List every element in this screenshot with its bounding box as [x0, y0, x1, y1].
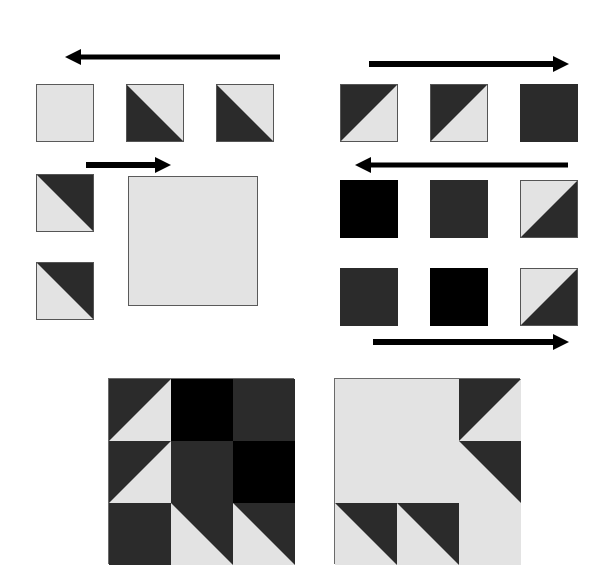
diagram-canvas [0, 0, 614, 587]
finished-block-dark-cell-r1c3 [233, 379, 295, 441]
finished-block-dark-cell-r1c2 [171, 379, 233, 441]
patch-tr-2 [430, 84, 488, 142]
patch-br-1 [340, 268, 398, 326]
patch-tl-1 [36, 84, 94, 142]
patch-tr-1 [340, 84, 398, 142]
arrow-top-right-icon [369, 55, 569, 73]
arrow-top-left-icon [65, 48, 280, 66]
finished-block-dark-cell-r3c2 [171, 503, 233, 565]
patch-tr-3 [520, 84, 578, 142]
patch-ml-2 [36, 262, 94, 320]
patch-mr-3 [520, 180, 578, 238]
arrow-mid-right-icon [355, 156, 568, 174]
arrow-bottom-right-icon [373, 333, 569, 351]
patch-tl-3 [216, 84, 274, 142]
patch-ml-1 [36, 174, 94, 232]
patch-mr-2 [430, 180, 488, 238]
finished-block-dark-cell-r2c2 [171, 441, 233, 503]
arrow-mid-left-icon [86, 156, 171, 174]
finished-block-light-cell-r3c2 [397, 503, 459, 565]
patch-tl-2 [126, 84, 184, 142]
block-light-center-square [335, 379, 459, 503]
patch-br-2 [430, 268, 488, 326]
finished-block-light-cell-r2c3 [459, 441, 521, 503]
finished-block-dark-cell-r2c3 [233, 441, 295, 503]
finished-block-dark-cell-r1c1 [109, 379, 171, 441]
finished-block-dark [108, 378, 294, 564]
patch-mr-1 [340, 180, 398, 238]
finished-block-light [334, 378, 520, 564]
finished-block-light-cell-r1c3 [459, 379, 521, 441]
patch-br-3 [520, 268, 578, 326]
patch-ml-big [128, 176, 258, 306]
finished-block-dark-cell-r3c1 [109, 503, 171, 565]
finished-block-light-cell-r3c3 [459, 503, 521, 565]
finished-block-dark-cell-r2c1 [109, 441, 171, 503]
finished-block-dark-cell-r3c3 [233, 503, 295, 565]
finished-block-light-cell-r3c1 [335, 503, 397, 565]
